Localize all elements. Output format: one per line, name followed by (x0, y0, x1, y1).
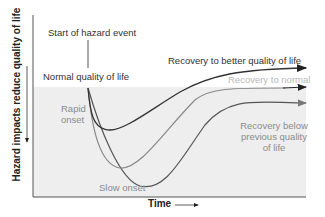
recovery-below-label-line3: of life (237, 143, 311, 154)
hazard-quality-of-life-diagram: Hazard impacts reduce quality of life Ti… (0, 0, 325, 217)
slow-onset-label: Slow onset (99, 183, 145, 194)
y-axis-label: Hazard impacts reduce quality of life (11, 22, 22, 182)
start-event-label: Start of hazard event (48, 28, 136, 39)
recovery-normal-label: Recovery to normal (228, 75, 310, 86)
recovery-better-label: Recovery to better quality of life (168, 56, 301, 67)
x-axis-label: Time (148, 198, 171, 209)
rapid-onset-label-line2: onset (61, 115, 84, 126)
normal-quality-label: Normal quality of life (43, 72, 129, 83)
